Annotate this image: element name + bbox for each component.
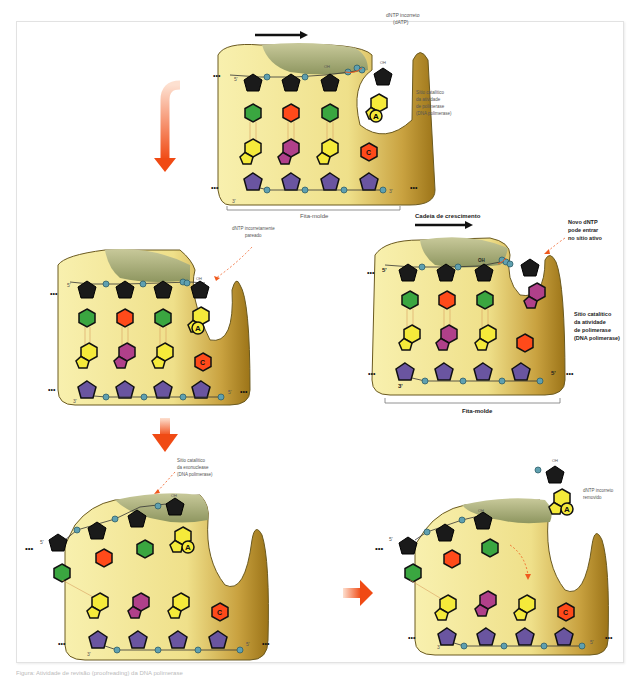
svg-text:•••: ••• [50,290,58,297]
svg-text:A: A [195,324,201,333]
svg-text:C: C [563,609,568,616]
svg-text:•••: ••• [408,634,416,641]
svg-text:5': 5' [40,539,44,545]
svg-text:C: C [200,359,205,366]
svg-text:(DNA polimerase): (DNA polimerase) [416,111,452,116]
svg-text:3': 3' [437,644,441,650]
svg-text:•••: ••• [240,388,248,395]
svg-text:3': 3' [398,383,403,389]
svg-text:(DNA polimerase): (DNA polimerase) [574,335,620,341]
svg-text:(DNA polimerase): (DNA polimerase) [177,472,213,477]
proofreading-diagram: A C 5' 3' 3' ••• ••• ••• OH OH Fita-mold… [0,0,638,686]
svg-text:•••: ••• [410,184,418,191]
svg-text:•••: ••• [211,184,219,191]
catalytic-site-label-2: Sítio catalítico [574,311,612,317]
svg-text:OH: OH [380,60,386,65]
svg-text:da atividade: da atividade [416,97,441,102]
svg-text:OH: OH [324,64,330,69]
svg-text:•••: ••• [375,544,384,553]
catalytic-site-label: Sítio catalítico [416,90,445,95]
svg-text:de polimerase: de polimerase [416,104,445,109]
svg-text:da exonuclease: da exonuclease [177,465,209,470]
svg-text:pareado: pareado [245,233,262,238]
svg-text:pode entrar: pode entrar [568,227,599,233]
svg-text:5': 5' [67,282,71,288]
arrow-step-1-to-2 [154,85,180,172]
incorrect-dntp-label: dNTP incorreto [386,12,420,18]
mispaired-label: dNTP incorretamente [232,226,275,231]
svg-text:C: C [217,609,222,616]
svg-text:•••: ••• [566,370,574,377]
panel-3-exonuclease-site: A C 5' 3' 5' ••• ••• ••• OH Sítio catalí… [25,458,270,660]
growing-chain-label: Cadeia de crescimento [415,213,481,219]
exonuclease-site-label: Sítio catalítico [177,458,206,463]
template-label-2: Fita-molde [462,408,493,414]
removed-dntp-label: dNTP incorreto [583,488,614,493]
panel-1-incorrect-dntp-entering: A C 5' 3' 3' ••• ••• ••• OH OH Fita-mold… [211,12,452,219]
svg-text:OH: OH [171,493,177,498]
svg-text:3': 3' [73,398,77,404]
svg-text:3': 3' [232,198,236,204]
svg-text:OH: OH [552,458,558,463]
svg-text:5': 5' [551,370,556,376]
arrow-step-2-to-3 [152,418,178,452]
svg-text:no sítio ativo: no sítio ativo [568,235,603,241]
svg-text:OH: OH [478,258,485,263]
svg-text:•••: ••• [48,386,56,393]
svg-text:(dATP): (dATP) [393,19,409,25]
svg-text:OH: OH [196,276,202,281]
template-label: Fita-molde [300,213,329,219]
svg-text:5': 5' [234,76,238,82]
svg-text:•••: ••• [25,544,34,553]
figure-caption: Figura: Atividade de revisão (proofreadi… [16,670,622,680]
svg-text:•••: ••• [367,269,375,276]
svg-text:removido: removido [583,495,602,500]
svg-text:5': 5' [246,641,250,647]
svg-text:•••: ••• [262,640,270,647]
panel-4-incorrect-dntp-removed: C 5' 3' 5' ••• ••• ••• OH OH A dNTP inco… [375,458,614,655]
svg-text:•••: ••• [58,640,66,647]
svg-text:5': 5' [382,267,387,273]
svg-text:5': 5' [590,639,594,645]
svg-text:3': 3' [87,651,91,657]
svg-text:•••: ••• [213,72,221,79]
base-a-label: A [373,112,379,121]
svg-text:A: A [185,543,191,552]
panel-2-mispaired-dntp: A C 5' 3' 5' ••• ••• ••• OH dNTP incorre… [48,226,275,405]
panel-5-new-dntp-can-enter: Cadeia de crescimento 5' 3' 5' ••• ••• •… [367,213,620,414]
svg-text:•••: ••• [605,634,613,641]
base-c-label: C [366,149,371,156]
svg-text:•••: ••• [368,370,376,377]
svg-text:A: A [564,505,570,514]
svg-text:3': 3' [389,188,393,194]
svg-text:5': 5' [389,536,393,542]
svg-text:OH: OH [478,508,484,513]
arrow-step-3-to-4 [343,580,373,606]
svg-text:da atividade: da atividade [574,319,606,325]
new-dntp-label: Novo dNTP [568,219,598,225]
svg-text:5': 5' [228,389,232,395]
svg-text:de polimerase: de polimerase [574,327,611,333]
